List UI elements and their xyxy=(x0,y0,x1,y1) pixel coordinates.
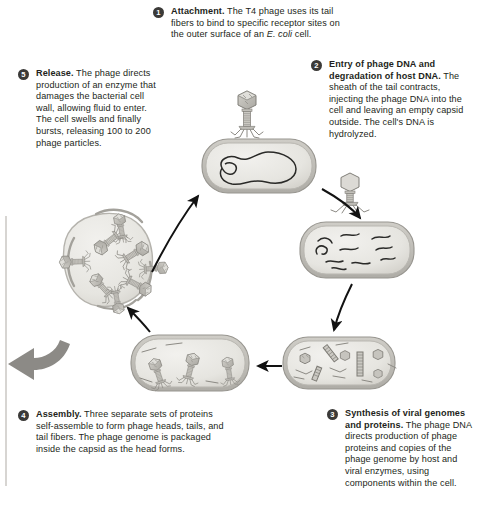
figure-canvas: 1 Attachment. The T4 phage uses its tail… xyxy=(0,0,481,512)
step-heading-5: Release. xyxy=(36,68,74,78)
caption-step-2: 2 Entry of phage DNA and degradation of … xyxy=(329,59,469,140)
step-badge-5: 5 xyxy=(18,69,29,80)
illustration-step-5 xyxy=(59,210,169,316)
step-badge-2: 2 xyxy=(311,60,322,71)
arrow-step2-to-step3 xyxy=(334,284,352,330)
step-badge-4: 4 xyxy=(18,410,29,421)
step-badge-3: 3 xyxy=(327,409,338,420)
caption-step-4: 4 Assembly. Three separate sets of prote… xyxy=(36,409,228,455)
illustration-step-4 xyxy=(131,335,249,392)
caption-step-5: 5 Release. The phage directs production … xyxy=(36,68,156,149)
step-badge-1: 1 xyxy=(153,7,164,18)
caption-step-3: 3 Synthesis of viral genomes and protein… xyxy=(345,408,477,489)
illustration-step-1 xyxy=(202,91,316,193)
arrow-step5-to-step1 xyxy=(152,196,198,272)
step-italic-1: E. coli xyxy=(267,29,292,39)
step-heading-4: Assembly. xyxy=(36,409,82,419)
step-body-5: The phage directs production of an enzym… xyxy=(36,68,156,148)
illustration-step-2 xyxy=(300,173,414,278)
step-heading-1: Attachment. xyxy=(171,6,225,16)
step-body-1b: cell. xyxy=(292,29,311,39)
caption-step-1: 1 Attachment. The T4 phage uses its tail… xyxy=(171,6,351,41)
step-heading-2: Entry of phage DNA and degradation of ho… xyxy=(329,59,441,81)
arrow-step4-to-step5 xyxy=(128,308,150,332)
illustration-step-3 xyxy=(283,337,396,389)
arrow-release-outward xyxy=(8,340,70,380)
